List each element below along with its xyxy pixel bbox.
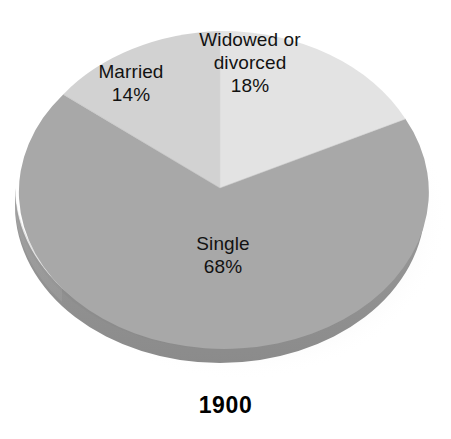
pie-chart-graphic	[0, 0, 451, 439]
pie-chart-figure: Widowed or divorced 18% Married 14% Sing…	[0, 0, 451, 439]
chart-caption-year: 1900	[0, 392, 451, 419]
pie-slices	[19, 31, 429, 349]
